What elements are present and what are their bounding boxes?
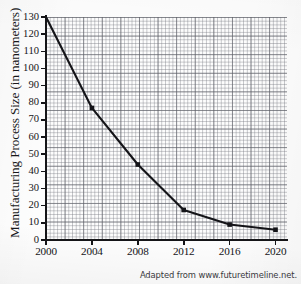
- data-series-layer: [0, 0, 301, 284]
- data-point-marker: [273, 227, 278, 232]
- series-line: [46, 17, 276, 230]
- series-markers: [90, 106, 278, 232]
- data-point-marker: [227, 222, 232, 227]
- data-point-marker: [181, 208, 186, 213]
- chart-figure: Manufacturing Process Size (in nanometer…: [0, 0, 301, 284]
- data-point-marker: [90, 106, 95, 111]
- data-point-marker: [136, 162, 141, 167]
